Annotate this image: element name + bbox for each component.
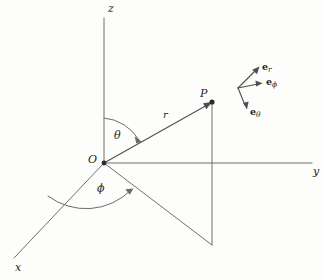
projection-line [104, 163, 212, 245]
theta-angle-label: θ [114, 130, 121, 141]
spherical-coordinates-figure: z y x O P r θ ϕ er eϕ eθ [0, 0, 324, 280]
point-p-dot [209, 99, 214, 104]
y-axis-label: y [313, 166, 319, 177]
origin-label: O [88, 154, 97, 165]
phi-angle-label: ϕ [97, 183, 105, 194]
diagram-canvas [0, 0, 324, 280]
e-phi-subscript: ϕ [272, 80, 277, 89]
x-axis [14, 163, 104, 258]
origin-dot [102, 161, 107, 166]
e-phi-arrowhead [255, 80, 262, 86]
phi-arc [48, 190, 131, 209]
z-axis-label: z [108, 3, 114, 14]
point-p-label: P [200, 88, 207, 99]
x-axis-label: x [15, 262, 21, 273]
e-theta-label: eθ [250, 107, 261, 118]
e-r-label: er [262, 62, 272, 73]
e-r-subscript: r [268, 65, 272, 74]
radial-vector-label: r [163, 110, 168, 120]
e-theta-subscript: θ [256, 110, 261, 119]
e-phi-label: eϕ [266, 77, 277, 88]
theta-arc [104, 118, 139, 140]
e-theta-line [238, 88, 245, 105]
